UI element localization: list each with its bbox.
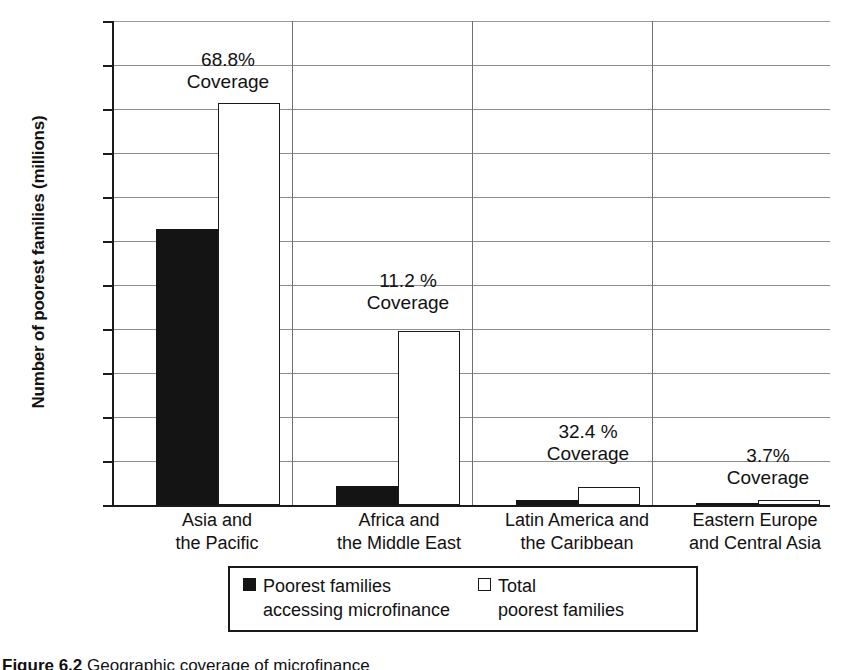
x-label-latin-america-line2: the Caribbean: [484, 532, 670, 555]
figure-caption: Figure 6.2 Geographic coverage of microf…: [2, 655, 840, 670]
annotation-africa: 11.2 % Coverage: [328, 270, 488, 315]
bar-eastern-europe-microfinance: [696, 503, 758, 505]
bar-latin-america-total: [578, 487, 640, 505]
bar-africa-total: [398, 331, 460, 505]
annotation-africa-coverage: Coverage: [328, 292, 488, 314]
category-separator-2: [472, 21, 473, 506]
annotation-eastern-europe: 3.7% Coverage: [688, 445, 841, 490]
annotation-latin-america-percent: 32.4 %: [508, 421, 668, 443]
y-axis-line: [112, 21, 114, 507]
legend-swatch-dark-icon: [243, 578, 256, 591]
annotation-asia-percent: 68.8%: [148, 49, 308, 71]
annotation-eastern-europe-coverage: Coverage: [688, 467, 841, 489]
legend-entry-microfinance: Poorest families accessing microfinance: [243, 575, 450, 623]
chart-legend: Poorest families accessing microfinance …: [228, 566, 698, 632]
x-label-asia: Asia and the Pacific: [132, 509, 302, 555]
figure-caption-text: Geographic coverage of microfinance: [87, 656, 370, 670]
annotation-eastern-europe-percent: 3.7%: [688, 445, 841, 467]
x-label-eastern-europe: Eastern Europe and Central Asia: [662, 509, 841, 555]
annotation-latin-america: 32.4 % Coverage: [508, 421, 668, 466]
annotation-asia-coverage: Coverage: [148, 71, 308, 93]
figure-caption-label: Figure 6.2: [2, 656, 82, 670]
x-label-eastern-europe-line1: Eastern Europe: [662, 509, 841, 532]
x-label-africa-line2: the Middle East: [309, 532, 489, 555]
bar-eastern-europe-total: [758, 500, 820, 505]
x-axis-line: [112, 505, 830, 507]
bar-latin-america-microfinance: [516, 500, 578, 506]
legend-label-total-line1: Total: [498, 576, 536, 596]
legend-label-total-line2: poorest families: [498, 599, 624, 623]
annotation-asia: 68.8% Coverage: [148, 49, 308, 94]
y-axis-title: Number of poorest families (millions): [29, 27, 49, 497]
annotation-africa-percent: 11.2 %: [328, 270, 488, 292]
legend-swatch-light-icon: [478, 578, 491, 591]
bar-africa-microfinance: [336, 486, 398, 505]
legend-label-microfinance-line2: accessing microfinance: [263, 599, 450, 623]
gridline-220: [112, 21, 830, 22]
legend-entry-total: Total poorest families: [478, 575, 624, 623]
plot-frame: 68.8% Coverage 11.2 % Coverage 32.4 % Co…: [112, 21, 830, 506]
x-label-africa-line1: Africa and: [309, 509, 489, 532]
x-label-asia-line2: the Pacific: [132, 532, 302, 555]
bar-asia-microfinance: [156, 229, 218, 505]
bar-asia-total: [218, 103, 280, 505]
x-axis-labels: Asia and the Pacific Africa and the Midd…: [112, 509, 841, 561]
x-label-asia-line1: Asia and: [132, 509, 302, 532]
plot-area: 68.8% Coverage 11.2 % Coverage 32.4 % Co…: [112, 21, 830, 506]
x-label-latin-america-line1: Latin America and: [484, 509, 670, 532]
x-label-africa: Africa and the Middle East: [309, 509, 489, 555]
x-label-eastern-europe-line2: and Central Asia: [662, 532, 841, 555]
legend-label-microfinance-line1: Poorest families: [263, 576, 391, 596]
figure-container: Number of poorest families (millions) 22…: [0, 0, 841, 670]
x-label-latin-america: Latin America and the Caribbean: [484, 509, 670, 555]
annotation-latin-america-coverage: Coverage: [508, 443, 668, 465]
